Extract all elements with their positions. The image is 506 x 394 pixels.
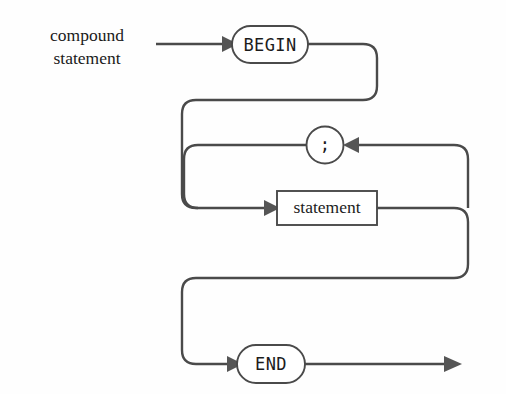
- rail-statement-to-end: [182, 208, 468, 364]
- arrow-into-semicolon-icon: [343, 137, 359, 153]
- semicolon-terminal-label: ;: [320, 135, 331, 155]
- begin-terminal-label: BEGIN: [243, 35, 296, 55]
- arrow-exit-icon: [444, 356, 462, 372]
- end-terminal-label: END: [255, 354, 287, 374]
- railroad-canvas: BEGIN ; statement END: [0, 0, 506, 394]
- statement-nonterminal-label: statement: [293, 197, 360, 217]
- rail-begin-to-statement: [182, 44, 377, 208]
- railroad-diagram: compound statement BEGIN ; statement END: [0, 0, 506, 394]
